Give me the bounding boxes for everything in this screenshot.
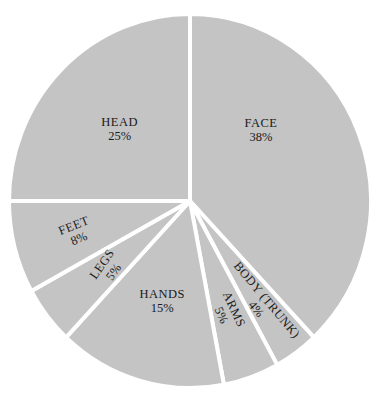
slice-label-percent: 25% <box>108 129 131 143</box>
slice-label-percent: 15% <box>151 301 174 315</box>
pie-svg: FACE38%BODY (TRUNK)4%ARMS5%HANDS15%LEGS5… <box>0 0 379 396</box>
slice-label-name: HEAD <box>101 115 138 129</box>
pie-chart: FACE38%BODY (TRUNK)4%ARMS5%HANDS15%LEGS5… <box>0 0 379 396</box>
pie-slice-head <box>9 14 190 201</box>
slice-label-name: FACE <box>244 116 277 130</box>
slice-label-name: HANDS <box>139 287 185 301</box>
pie-slices <box>9 14 371 388</box>
slice-label-percent: 38% <box>249 130 272 144</box>
